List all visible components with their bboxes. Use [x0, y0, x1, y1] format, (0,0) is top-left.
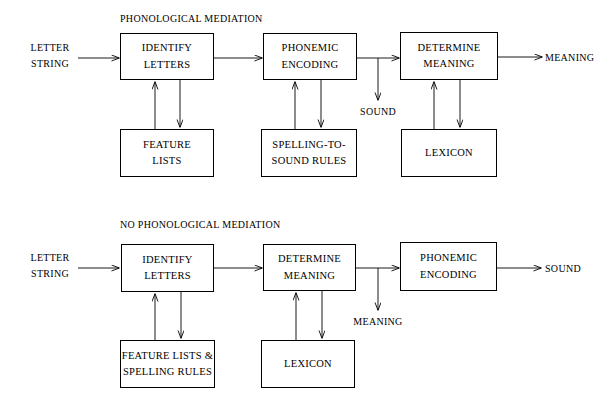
box-phonemic-encoding-bottom[interactable]: PHONEMIC ENCODING [400, 242, 497, 291]
box-spelling-to-sound-rules-top[interactable]: SPELLING-TO- SOUND RULES [261, 129, 357, 177]
input-label-line-1: LETTER [19, 40, 81, 56]
box-line-1: IDENTIFY [142, 252, 192, 268]
section-title-no-phonological-mediation: NO PHONOLOGICAL MEDIATION [120, 219, 280, 230]
input-label-letter-string-bottom: LETTER STRING [19, 250, 81, 281]
box-line-1: LEXICON [425, 145, 473, 161]
flow-diagram-canvas: PHONOLOGICAL MEDIATION LETTER STRING IDE… [0, 0, 616, 411]
box-line-1: LEXICON [284, 356, 332, 372]
box-line-1: DETERMINE [418, 40, 481, 56]
box-line-1: IDENTIFY [142, 40, 192, 56]
input-label-line-1: LETTER [19, 250, 81, 266]
input-label-line-2: STRING [19, 56, 81, 72]
box-line-2: LETTERS [144, 57, 191, 73]
input-label-letter-string-top: LETTER STRING [19, 40, 81, 71]
box-line-2: SPELLING RULES [123, 364, 212, 380]
box-feature-lists-and-spelling-rules-bottom[interactable]: FEATURE LISTS & SPELLING RULES [120, 340, 215, 388]
box-line-1: PHONEMIC [420, 250, 477, 266]
box-line-1: FEATURE [143, 137, 191, 153]
box-determine-meaning-bottom[interactable]: DETERMINE MEANING [263, 244, 356, 291]
box-identify-letters-bottom[interactable]: IDENTIFY LETTERS [121, 244, 214, 292]
box-determine-meaning-top[interactable]: DETERMINE MEANING [400, 32, 498, 80]
branch-label-meaning-bottom: MEANING [348, 314, 408, 330]
box-feature-lists-top[interactable]: FEATURE LISTS [120, 129, 214, 177]
box-line-1: FEATURE LISTS & [122, 348, 213, 364]
box-line-1: DETERMINE [278, 251, 341, 267]
output-label-meaning-top: MEANING [545, 50, 594, 66]
box-line-2: MEANING [284, 268, 335, 284]
box-line-2: ENCODING [282, 57, 339, 73]
box-line-1: PHONEMIC [282, 40, 339, 56]
box-line-1: SPELLING-TO- [272, 137, 345, 153]
box-line-2: LISTS [152, 153, 181, 169]
box-identify-letters-top[interactable]: IDENTIFY LETTERS [120, 33, 214, 80]
box-line-2: MEANING [423, 56, 474, 72]
box-lexicon-bottom[interactable]: LEXICON [261, 340, 355, 388]
section-title-phonological-mediation: PHONOLOGICAL MEDIATION [120, 13, 263, 24]
box-line-2: ENCODING [420, 267, 477, 283]
input-label-line-2: STRING [19, 266, 81, 282]
box-line-2: SOUND RULES [272, 153, 347, 169]
branch-label-sound-top: SOUND [352, 104, 404, 120]
box-line-2: LETTERS [144, 268, 191, 284]
output-label-sound-bottom: SOUND [545, 261, 581, 277]
box-lexicon-top[interactable]: LEXICON [401, 129, 497, 177]
box-phonemic-encoding-top[interactable]: PHONEMIC ENCODING [263, 33, 357, 80]
